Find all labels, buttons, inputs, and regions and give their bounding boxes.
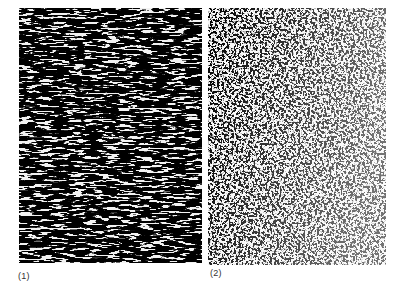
dispersed-microstructure-image — [208, 8, 386, 265]
panel-label-1: (1) — [18, 271, 30, 281]
micrograph-panel-1 — [19, 8, 202, 263]
banded-microstructure-image — [19, 8, 202, 263]
micrograph-panel-2 — [208, 8, 386, 265]
panel-label-2: (2) — [210, 268, 222, 278]
